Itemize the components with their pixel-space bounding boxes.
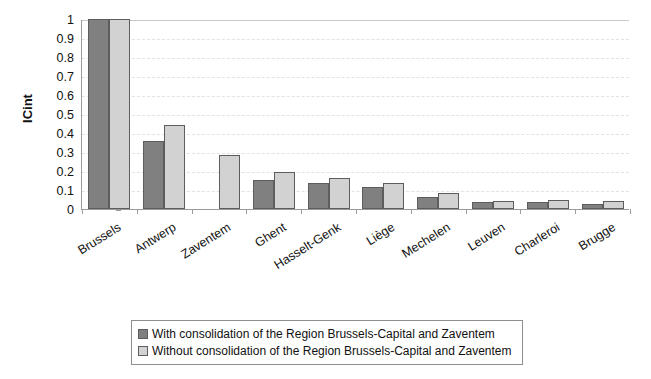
legend-entry-with-consolidation: With consolidation of the Region Brussel… — [138, 325, 516, 342]
bar — [493, 201, 514, 209]
x-axis-category-label: Antwerp — [133, 221, 179, 256]
bar-group — [356, 20, 411, 209]
y-axis-tick-label: 0.6 — [57, 90, 74, 103]
y-axis-tick-labels: 00.10.20.30.40.50.60.70.80.91 — [40, 20, 74, 210]
bar-group — [192, 20, 247, 209]
x-axis-category-labels: BrusselsAntwerpZaventemGhentHasselt-Genk… — [0, 214, 651, 304]
y-axis-title-text: ICint — [20, 94, 35, 123]
y-axis-tick-label: 0.9 — [57, 33, 74, 46]
bar — [219, 155, 240, 209]
bar-group — [301, 20, 356, 209]
y-axis-tick-label: 0.8 — [57, 52, 74, 65]
y-axis-tick-label: 1 — [67, 14, 74, 27]
x-axis-category-label: Liège — [365, 221, 398, 248]
x-axis-category-label: Brugge — [576, 221, 617, 253]
bar — [164, 125, 185, 209]
bar — [308, 183, 329, 209]
bar — [548, 200, 569, 209]
bar-group — [575, 20, 630, 209]
legend-swatch-icon-dark — [138, 329, 148, 339]
bar — [143, 141, 164, 209]
bar-chart-figure: ICint 00.10.20.30.40.50.60.70.80.91 Brus… — [0, 0, 651, 379]
y-axis-tick-label: 0.3 — [57, 147, 74, 160]
legend-label-with-consolidation: With consolidation of the Region Brussel… — [152, 328, 495, 340]
bar-group — [520, 20, 575, 209]
y-axis-tick-label: 0.7 — [57, 71, 74, 84]
y-axis-tick-label: 0.5 — [57, 109, 74, 122]
x-axis-category-label: Brussels — [76, 221, 123, 257]
bar — [88, 19, 109, 209]
bar — [582, 204, 603, 209]
y-axis-tick-label: 0.4 — [57, 128, 74, 141]
y-axis-title: ICint — [14, 78, 40, 138]
bar — [527, 202, 548, 209]
bar — [603, 201, 624, 209]
bar — [417, 197, 438, 209]
x-axis-category-label: Mechelen — [400, 221, 453, 260]
bar-group — [82, 20, 137, 209]
plot-area — [81, 20, 629, 210]
bar — [438, 193, 459, 209]
bar — [253, 180, 274, 209]
y-axis-tick-mark — [116, 210, 121, 211]
legend: With consolidation of the Region Brussel… — [131, 320, 523, 365]
bars-layer — [82, 20, 629, 209]
x-axis-category-label: Ghent — [253, 221, 289, 250]
x-axis-category-label: Zaventem — [179, 221, 233, 261]
x-axis-category-label: Leuven — [466, 221, 507, 253]
bar-group — [137, 20, 192, 209]
bar-group — [246, 20, 301, 209]
bar — [383, 183, 404, 209]
bar-group — [466, 20, 521, 209]
legend-label-without-consolidation: Without consolidation of the Region Brus… — [152, 345, 512, 357]
legend-entry-without-consolidation: Without consolidation of the Region Brus… — [138, 342, 516, 359]
bar — [329, 178, 350, 209]
x-axis-category-label: Charleroi — [512, 221, 562, 258]
y-axis-tick-label: 0.2 — [57, 166, 74, 179]
bar — [109, 19, 130, 209]
y-axis-tick-label: 0.1 — [57, 185, 74, 198]
bar — [274, 172, 295, 209]
bar — [472, 202, 493, 209]
legend-swatch-icon-light — [138, 346, 148, 356]
bar-group — [411, 20, 466, 209]
bar — [362, 187, 383, 209]
